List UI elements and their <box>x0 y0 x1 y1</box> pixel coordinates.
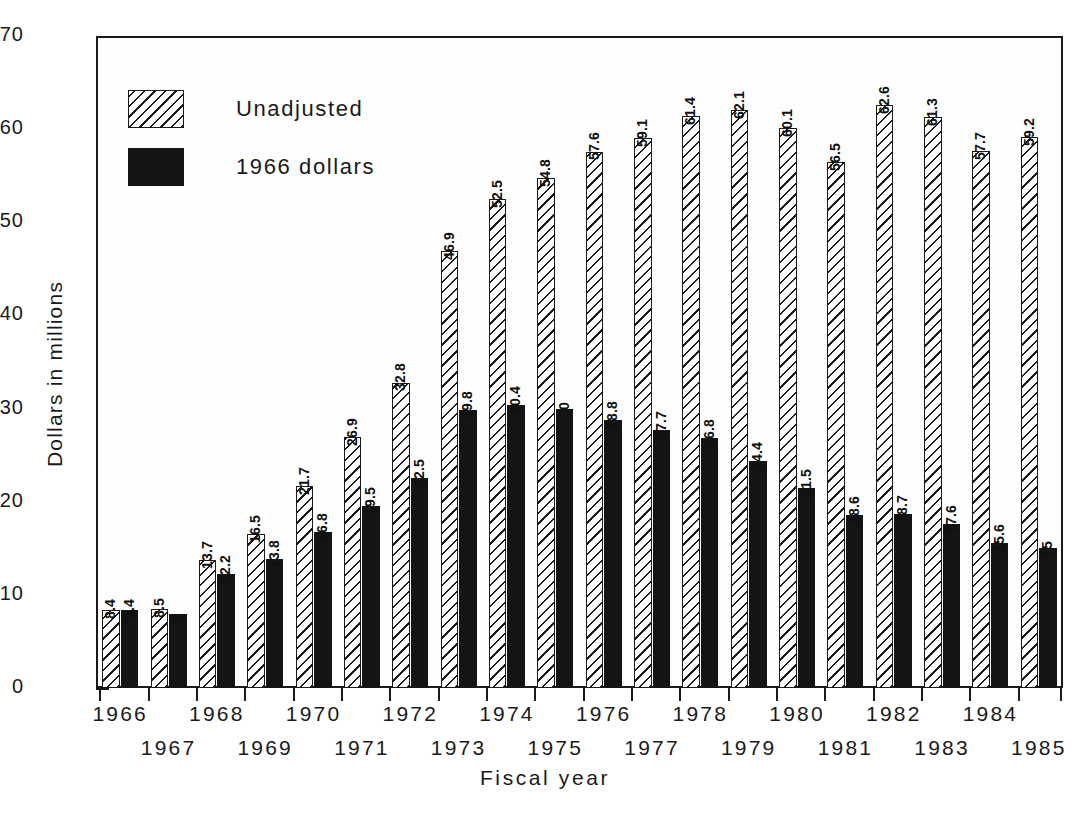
bar-value-label: 18.7 <box>895 495 909 523</box>
x-tick-label: 1969 <box>210 736 320 760</box>
bar-value-label: 18.6 <box>847 496 861 524</box>
bar <box>266 559 284 688</box>
x-tick-mark <box>1060 688 1062 701</box>
bar-value-label: 26.8 <box>702 419 716 447</box>
bar-value-label: 13.7 <box>200 541 214 569</box>
bar-value-label: 59.1 <box>635 118 649 146</box>
bar-value-label: 62.1 <box>732 91 746 119</box>
bar <box>199 560 217 688</box>
bar <box>247 534 265 688</box>
x-tick-label: 1984 <box>935 702 1045 726</box>
x-tick-mark <box>631 688 633 701</box>
bar <box>749 461 767 688</box>
x-tick-label: 1973 <box>404 736 514 760</box>
bar-value-label: 24.4 <box>750 442 764 470</box>
bar-value-label: 61.4 <box>683 97 697 125</box>
x-tick-mark <box>824 688 826 701</box>
x-axis-title: Fiscal year <box>0 766 1090 790</box>
bar <box>411 478 429 688</box>
bar <box>731 110 749 688</box>
bar <box>779 128 797 688</box>
legend-item-unadjusted: Unadjusted <box>128 90 363 128</box>
x-tick-label: 1980 <box>742 702 852 726</box>
bar-value-label: 30.4 <box>508 386 522 414</box>
x-tick-label: 1968 <box>162 702 272 726</box>
x-tick-label: 1975 <box>500 736 610 760</box>
bar-chart: Dollars in millions 010203040506070 8.48… <box>0 0 1090 814</box>
bar-value-label: 21.5 <box>799 469 813 497</box>
legend-item-1966-dollars: 1966 dollars <box>128 148 375 186</box>
bar-value-label: 19.5 <box>363 487 377 515</box>
x-tick-label: 1971 <box>307 736 417 760</box>
bar <box>634 138 652 688</box>
bar-value-label: 28.8 <box>605 401 619 429</box>
bar <box>362 506 380 688</box>
bar <box>489 199 507 688</box>
y-tick-label: 40 <box>0 302 24 325</box>
y-tick-label: 30 <box>0 396 24 419</box>
x-tick-mark <box>534 688 536 701</box>
bar-value-label: 17.6 <box>944 505 958 533</box>
x-tick-mark <box>438 688 440 701</box>
bar-value-label: 16.5 <box>248 515 262 543</box>
x-tick-label: 1970 <box>259 702 369 726</box>
bar <box>1021 137 1039 688</box>
legend-swatch-solid-icon <box>128 148 184 186</box>
bar <box>827 162 845 688</box>
x-tick-label: 1978 <box>645 702 755 726</box>
bar-value-label: 8.5 <box>152 598 166 618</box>
bar-value-label: 60.1 <box>780 109 794 137</box>
y-tick-label: 20 <box>0 489 24 512</box>
bar <box>876 105 894 688</box>
x-tick-mark <box>921 688 923 701</box>
bar <box>102 610 120 688</box>
y-axis-title: Dollars in millions <box>43 224 67 524</box>
bar-value-label: 56.5 <box>828 143 842 171</box>
x-tick-mark <box>99 688 101 701</box>
bar-value-label: 8.4 <box>103 599 117 619</box>
bar <box>537 178 555 688</box>
legend-label: 1966 dollars <box>236 154 375 180</box>
bar <box>682 116 700 688</box>
bar-value-label: 62.6 <box>877 86 891 114</box>
legend-label: Unadjusted <box>236 96 363 122</box>
bar <box>894 514 912 688</box>
bar <box>586 152 604 689</box>
bar <box>217 574 235 688</box>
bar <box>846 515 864 688</box>
x-tick-mark <box>341 688 343 701</box>
x-tick-label: 1967 <box>114 736 224 760</box>
bar <box>121 610 139 688</box>
bar <box>653 430 671 688</box>
bar-value-label: 16.8 <box>315 512 329 540</box>
x-tick-mark <box>196 688 198 701</box>
x-tick-label: 1982 <box>839 702 949 726</box>
bar <box>701 438 719 688</box>
x-tick-mark <box>583 688 585 701</box>
x-tick-label: 1976 <box>549 702 659 726</box>
bar <box>314 532 332 688</box>
bar-value-label: 61.3 <box>925 98 939 126</box>
bar <box>991 543 1009 688</box>
x-tick-mark <box>389 688 391 701</box>
y-tick-label: 60 <box>0 116 24 139</box>
bar-value-label: 22.5 <box>412 459 426 487</box>
bar <box>943 524 961 688</box>
bar-value-label: 57.6 <box>587 132 601 160</box>
x-tick-mark <box>679 688 681 701</box>
bar-value-label: 8.4 <box>122 599 136 619</box>
bar <box>344 437 362 688</box>
x-tick-mark <box>776 688 778 701</box>
x-tick-label: 1981 <box>790 736 900 760</box>
x-tick-mark <box>293 688 295 701</box>
y-tick-label: 70 <box>0 23 24 46</box>
bar-value-label: 54.8 <box>538 159 552 187</box>
y-tick-label: 0 <box>12 675 24 698</box>
bar <box>507 405 525 688</box>
bar <box>169 614 187 689</box>
bar-value-label: 46.9 <box>442 232 456 260</box>
x-tick-label: 1983 <box>887 736 997 760</box>
bar-value-label: 21.7 <box>297 467 311 495</box>
x-tick-label: 1979 <box>694 736 804 760</box>
y-tick-label: 50 <box>0 209 24 232</box>
